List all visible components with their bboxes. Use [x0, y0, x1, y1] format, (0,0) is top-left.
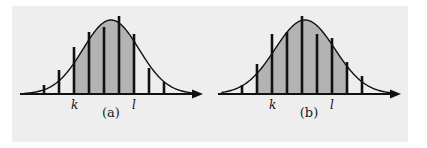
panel-b: k l (b)	[210, 6, 408, 142]
figure-root: k l (a) k l (b)	[0, 0, 427, 148]
x-axis-arrowhead	[192, 90, 203, 99]
normal-curve-chart-a	[12, 6, 210, 142]
panel-caption-b: (b)	[210, 106, 408, 119]
figure-plate: k l (a) k l (b)	[12, 6, 408, 142]
panel-a: k l (a)	[12, 6, 210, 142]
x-axis-arrowhead	[390, 90, 401, 99]
panel-caption-a: (a)	[12, 106, 210, 119]
normal-curve-chart-b	[210, 6, 408, 142]
